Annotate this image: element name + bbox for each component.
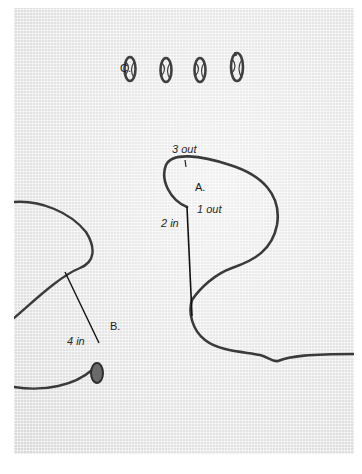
stitch-b [91,363,103,383]
thread-b-lower [14,370,92,389]
label-2-in: 2 in [161,218,179,229]
label-1-out: 1 out [197,204,221,215]
needle-a [187,207,192,316]
thread-a [164,156,354,361]
label-4-in: 4 in [67,336,85,347]
needle-b [65,272,99,343]
stitch-illustration [14,8,354,454]
embroidery-photo: C. 3 out A. 1 out 2 in B. 4 in [14,8,354,454]
label-a: A. [195,182,205,193]
label-c: C. [120,63,131,74]
thread-b [14,202,93,318]
label-3-out: 3 out [172,144,196,155]
row-c-stitches [125,52,244,82]
label-b: B. [110,321,120,332]
